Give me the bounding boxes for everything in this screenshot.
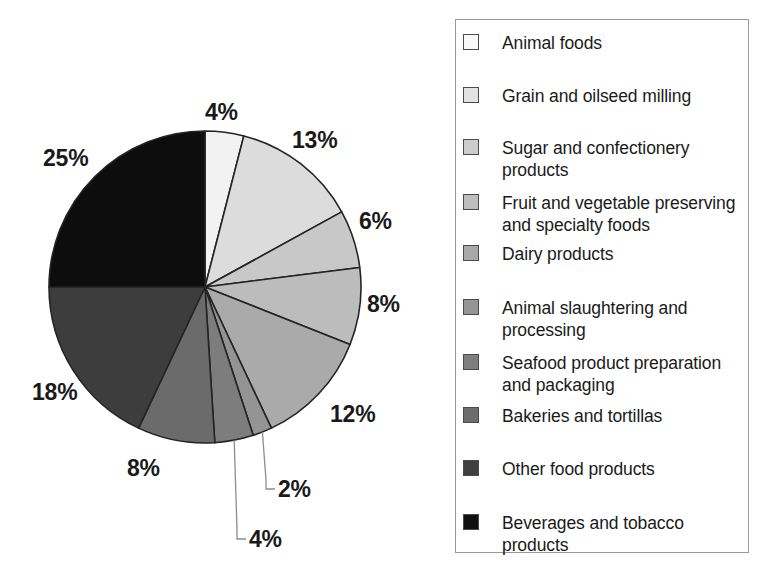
- legend-item-label: Fruit and vegetable preserving and speci…: [502, 192, 735, 237]
- legend-item-9[interactable]: Beverages and tobacco products: [463, 512, 684, 557]
- pie-value-label-bakeries-and-tortillas: 8%: [127, 457, 160, 480]
- legend-item-label: Grain and oilseed milling: [502, 85, 691, 107]
- legend-item-0[interactable]: Animal foods: [463, 32, 602, 54]
- pie-value-label-beverages-and-tobacco: 25%: [43, 147, 88, 170]
- pie-slice-group: [49, 131, 361, 443]
- legend-item-3[interactable]: Fruit and vegetable preserving and speci…: [463, 192, 735, 237]
- legend-item-label: Other food products: [502, 458, 655, 480]
- pie-leader-line-group: [234, 432, 275, 539]
- legend-item-label: Seafood product preparation and packagin…: [502, 352, 721, 397]
- leader-line-animal-slaughtering: [262, 432, 275, 489]
- pie-value-label-animal-slaughtering: 2%: [278, 478, 311, 501]
- legend-item-7[interactable]: Bakeries and tortillas: [463, 405, 662, 427]
- legend: Animal foodsGrain and oilseed millingSug…: [455, 19, 749, 553]
- pie-value-label-animal-foods: 4%: [205, 101, 238, 124]
- legend-item-label: Dairy products: [502, 243, 613, 265]
- leader-line-seafood-product: [234, 440, 246, 539]
- pie-chart-figure: 4%13%6%8%12%2%4%8%18%25% Animal foodsGra…: [0, 0, 779, 579]
- legend-swatch-icon-6: [463, 354, 479, 370]
- legend-item-1[interactable]: Grain and oilseed milling: [463, 85, 691, 107]
- legend-item-label: Animal slaughtering and processing: [502, 297, 687, 342]
- legend-swatch-icon-0: [463, 34, 479, 50]
- legend-swatch-icon-9: [463, 514, 479, 530]
- legend-item-4[interactable]: Dairy products: [463, 243, 613, 265]
- legend-item-5[interactable]: Animal slaughtering and processing: [463, 297, 687, 342]
- pie-value-label-grain-and-oilseed-milling: 13%: [292, 129, 337, 152]
- legend-item-label: Bakeries and tortillas: [502, 405, 662, 427]
- legend-item-label: Sugar and confectionery products: [502, 137, 689, 182]
- pie-chart-area: 4%13%6%8%12%2%4%8%18%25%: [0, 0, 445, 579]
- legend-swatch-icon-5: [463, 299, 479, 315]
- legend-swatch-icon-3: [463, 194, 479, 210]
- legend-item-label: Animal foods: [502, 32, 602, 54]
- legend-swatch-icon-4: [463, 245, 479, 261]
- pie-value-label-dairy-products: 12%: [330, 403, 375, 426]
- legend-item-2[interactable]: Sugar and confectionery products: [463, 137, 689, 182]
- legend-item-6[interactable]: Seafood product preparation and packagin…: [463, 352, 721, 397]
- legend-swatch-icon-8: [463, 460, 479, 476]
- pie-value-label-fruit-and-vegetable: 8%: [367, 293, 400, 316]
- pie-chart-svg: [0, 0, 445, 579]
- pie-value-label-seafood-product: 4%: [249, 528, 282, 551]
- pie-value-label-sugar-and-confectionery: 6%: [359, 210, 392, 233]
- legend-item-8[interactable]: Other food products: [463, 458, 655, 480]
- pie-value-label-other-food-products: 18%: [32, 381, 77, 404]
- legend-item-label: Beverages and tobacco products: [502, 512, 684, 557]
- legend-swatch-icon-1: [463, 87, 479, 103]
- legend-swatch-icon-2: [463, 139, 479, 155]
- legend-swatch-icon-7: [463, 407, 479, 423]
